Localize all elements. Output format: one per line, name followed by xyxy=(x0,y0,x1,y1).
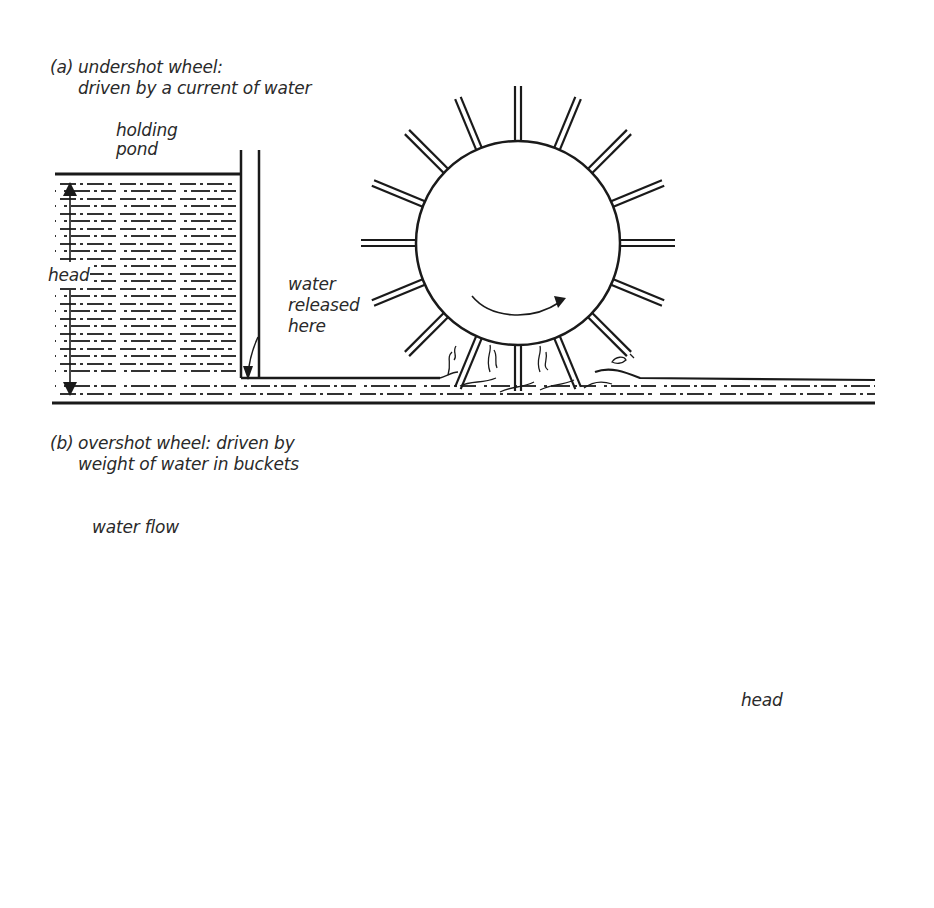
panel-b-caption: (b)overshot wheel: driven by weight of w… xyxy=(50,433,299,475)
panel-a-title-line1: undershot wheel: xyxy=(78,57,223,77)
water-flow-label: water flow xyxy=(92,517,179,537)
panel-b-title-line2: weight of water in buckets xyxy=(50,454,299,475)
water-released-label: water released here xyxy=(288,274,360,337)
head-label-b: head xyxy=(741,690,783,710)
panel-b-tag: (b) xyxy=(50,433,78,454)
head-label-a: head xyxy=(48,265,90,285)
panel-b-title-line1: overshot wheel: driven by xyxy=(78,433,295,453)
holding-pond-label: holding pond xyxy=(116,121,178,159)
holding-pond-label-line2: pond xyxy=(116,140,178,159)
water-released-line2: released xyxy=(288,295,360,316)
panel-a-caption: (a)undershot wheel: driven by a current … xyxy=(50,57,311,99)
water-released-line3: here xyxy=(288,316,360,337)
water-released-line1: water xyxy=(288,274,360,295)
holding-pond-label-line1: holding xyxy=(116,121,178,140)
panel-a-tag: (a) xyxy=(50,57,78,78)
panel-a-title-line2: driven by a current of water xyxy=(50,78,311,99)
